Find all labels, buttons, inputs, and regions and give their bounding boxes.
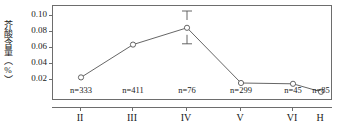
data-point-iv	[184, 25, 189, 30]
x-tick-mark-3	[240, 107, 241, 111]
x-tick-mark-1	[132, 107, 133, 111]
y-tick-label-1: 0.08	[31, 26, 47, 35]
x-tick-mark-0	[80, 107, 81, 111]
n-label-iii: n=411	[122, 86, 143, 95]
data-point-iii	[130, 42, 135, 47]
y-tick-label-0: 0.10	[31, 10, 47, 19]
n-label-vi: n=45	[284, 86, 302, 95]
x-tick-mark-4	[292, 107, 293, 111]
chart-figure: 芥酸含量（%） 0.10 0.08 0.06 0.04 0.02 n=333 n…	[0, 0, 343, 128]
x-category-vi: VI	[287, 112, 298, 123]
n-label-h: n=85	[312, 86, 330, 95]
x-category-iii: III	[127, 112, 137, 123]
plot-frame: n=333 n=411 n=76 n=299 n=45 n=85	[52, 5, 332, 100]
x-axis-line	[52, 107, 332, 108]
x-tick-mark-2	[186, 107, 187, 111]
x-category-v: V	[236, 112, 243, 123]
y-axis-tick-labels: 0.10 0.08 0.06 0.04 0.02	[16, 0, 50, 105]
y-axis-title: 芥酸含量（%）	[0, 6, 16, 98]
x-category-h: H	[316, 112, 323, 123]
x-category-iv: IV	[181, 112, 192, 123]
series-polyline	[81, 28, 321, 92]
x-category-ii: II	[77, 112, 84, 123]
n-label-ii: n=333	[70, 86, 92, 95]
y-tick-label-4: 0.02	[31, 74, 47, 83]
y-tick-label-2: 0.06	[31, 42, 47, 51]
n-label-v: n=299	[230, 86, 252, 95]
data-point-ii	[78, 75, 83, 80]
n-label-iv: n=76	[178, 86, 196, 95]
y-tick-label-3: 0.04	[31, 58, 47, 67]
